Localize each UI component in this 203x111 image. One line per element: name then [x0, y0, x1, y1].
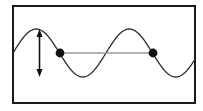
wave-point-right: [149, 49, 158, 58]
wave-point-left: [56, 49, 65, 58]
wave-diagram-figure: [0, 0, 203, 111]
figure-background: [0, 0, 203, 111]
wave-diagram-canvas: [0, 0, 203, 111]
